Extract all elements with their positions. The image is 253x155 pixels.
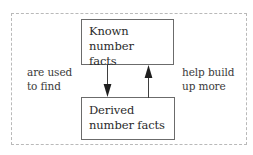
node-derived-label-line-1: Derived [89, 103, 134, 117]
edge-caption-right-line-1: help build [182, 66, 234, 78]
edge-caption-left-line-2: to find [27, 80, 61, 92]
node-known-number-facts: Known numberfacts [81, 19, 174, 65]
node-known-label-line-1: Known number [89, 24, 134, 53]
node-known-number-facts-label: Known numberfacts [89, 24, 170, 69]
node-derived-label-line-2: number facts [89, 118, 165, 132]
node-derived-number-facts-label: Derivednumber facts [89, 103, 171, 133]
edge-caption-help-build-up-more: help buildup more [182, 65, 234, 93]
diagram-canvas: Known numberfacts Derivednumber facts ar… [0, 0, 253, 155]
edge-caption-left-line-1: are used [27, 66, 72, 78]
edge-caption-are-used-to-find: are usedto find [27, 65, 72, 93]
edge-caption-right-line-2: up more [182, 80, 226, 92]
node-derived-number-facts: Derivednumber facts [81, 97, 175, 140]
arrow-down-icon [100, 64, 116, 98]
arrow-up-icon [141, 64, 157, 98]
